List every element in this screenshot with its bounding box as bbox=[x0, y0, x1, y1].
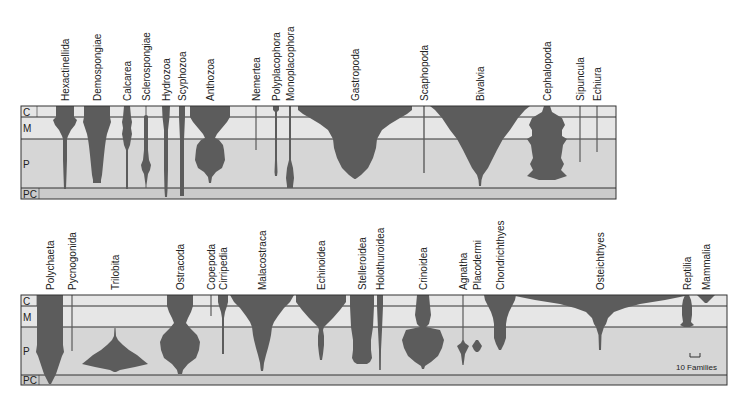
diversity-spindle-diagram: CMPPCHexactinellidaDemospongiaeCalcareaS… bbox=[0, 0, 747, 405]
zone-label-m: M bbox=[23, 123, 31, 134]
scale-bar-label: 10 Families bbox=[676, 363, 717, 372]
taxon-label-agnatha: Agnatha bbox=[458, 252, 469, 290]
taxon-label-polyplacophora: Polyplacophora bbox=[271, 32, 282, 101]
taxon-label-crinoidea: Crinoidea bbox=[418, 247, 429, 290]
taxon-label-mammalia: Mammalia bbox=[701, 243, 712, 290]
taxon-label-scaphopoda: Scaphopoda bbox=[419, 44, 430, 101]
taxon-label-malacostraca: Malacostraca bbox=[257, 230, 268, 290]
zone-label-p: P bbox=[23, 159, 30, 170]
zone-label-c: C bbox=[23, 107, 30, 118]
zone-label-pc: PC bbox=[23, 375, 37, 386]
zone-label-c: C bbox=[23, 296, 30, 307]
band-precambrian bbox=[21, 188, 616, 199]
panel-top: CMPPCHexactinellidaDemospongiaeCalcareaS… bbox=[21, 26, 616, 199]
spindle-nemertea bbox=[255, 106, 256, 150]
taxon-label-holothuroidea: Holothuroidea bbox=[375, 227, 386, 290]
taxon-label-echinoidea: Echinoidea bbox=[316, 240, 327, 290]
taxon-label-polychaeta: Polychaeta bbox=[45, 240, 56, 290]
spindle-sipuncula bbox=[579, 106, 580, 162]
taxon-label-cirripedia: Cirripedia bbox=[218, 247, 229, 290]
taxon-label-chondrichthyes: Chondrichthyes bbox=[495, 221, 506, 290]
taxon-label-demospongiae: Demospongiae bbox=[92, 33, 103, 101]
taxon-label-pycnogonida: Pycnogonida bbox=[67, 232, 78, 290]
taxon-label-monoplacophora: Monoplacophora bbox=[285, 26, 296, 101]
zone-label-p: P bbox=[23, 346, 30, 357]
taxon-label-sipuncula: Sipuncula bbox=[575, 57, 586, 101]
taxon-label-osteichthyes: Osteichthyes bbox=[595, 232, 606, 290]
taxon-label-gastropoda: Gastropoda bbox=[350, 48, 361, 101]
spindle-stelleroidea bbox=[350, 295, 374, 364]
taxon-label-bivalvia: Bivalvia bbox=[475, 66, 486, 101]
band-precambrian bbox=[21, 375, 727, 385]
panel-bottom: CMPPCPolychaetaPycnogonidaTrilobitaOstra… bbox=[21, 221, 727, 386]
band-paleozoic bbox=[21, 139, 616, 188]
taxon-label-trilobita: Trilobita bbox=[110, 254, 121, 290]
taxon-label-echiura: Echiura bbox=[592, 67, 603, 101]
taxon-label-hydrozoa: Hydrozoa bbox=[161, 58, 172, 101]
spindle-echiura bbox=[596, 106, 597, 152]
taxon-label-sclerospongiae: Sclerospongiae bbox=[141, 32, 152, 101]
taxon-label-hexactinellida: Hexactinellida bbox=[60, 38, 71, 101]
taxon-label-copepoda: Copepoda bbox=[206, 243, 217, 290]
taxon-label-scyphozoa: Scyphozoa bbox=[177, 51, 188, 101]
taxon-label-calcarea: Calcarea bbox=[122, 61, 133, 101]
taxon-label-nemertea: Nemertea bbox=[251, 57, 262, 101]
taxon-label-stelleroidea: Stelleroidea bbox=[357, 237, 368, 290]
spindle-scaphopoda bbox=[423, 106, 424, 173]
taxon-label-anthozoa: Anthozoa bbox=[205, 58, 216, 101]
panels: CMPPCHexactinellidaDemospongiaeCalcareaS… bbox=[21, 26, 727, 386]
zone-label-pc: PC bbox=[23, 189, 37, 200]
taxon-label-cephalopoda: Cephalopoda bbox=[542, 41, 553, 101]
spindle-copepoda bbox=[210, 295, 211, 316]
taxon-label-ostracoda: Ostracoda bbox=[175, 243, 186, 290]
zone-label-m: M bbox=[23, 312, 31, 323]
taxon-label-reptilia: Reptilia bbox=[682, 256, 693, 290]
spindle-pycnogonida bbox=[71, 295, 72, 351]
taxon-label-placodermi: Placodermi bbox=[472, 240, 483, 290]
